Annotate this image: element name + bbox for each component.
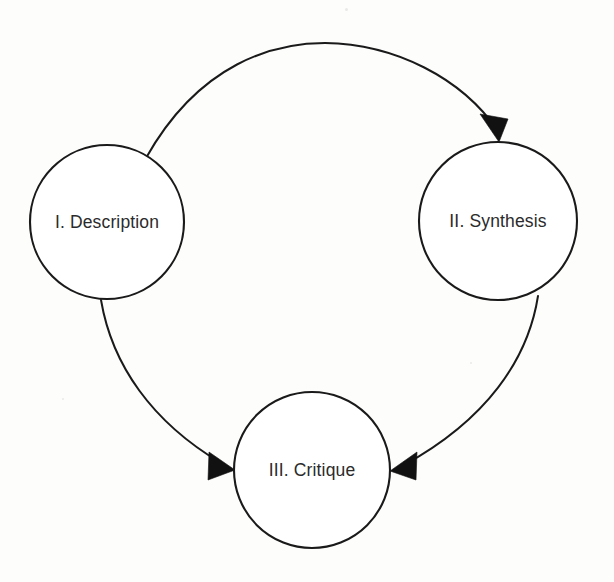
node-description[interactable]: I. Description [30,145,184,299]
arrowhead-into-critique-right [390,452,417,480]
edge-path-synthesis-to-critique [404,296,538,465]
node-label-synthesis: II. Synthesis [449,211,546,231]
diagram-page: I. Description II. Synthesis III. Critiq… [0,0,614,582]
edge-path-description-to-synthesis [146,43,498,158]
edge-synthesis-to-critique [390,296,538,480]
node-synthesis[interactable]: II. Synthesis [419,142,577,300]
process-cycle-diagram: I. Description II. Synthesis III. Critiq… [0,0,614,582]
node-label-critique: III. Critique [269,460,356,480]
edge-path-description-to-critique [101,300,221,463]
node-label-description: I. Description [55,212,159,232]
edge-description-to-synthesis [146,43,508,158]
node-critique[interactable]: III. Critique [234,392,390,548]
arrowhead-into-synthesis [480,114,508,142]
edge-description-to-critique [101,300,235,480]
arrowhead-into-critique-left [208,452,235,480]
